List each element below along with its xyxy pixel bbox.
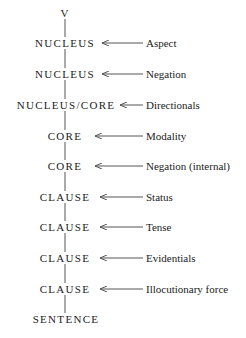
operator-negation: Negation xyxy=(146,68,186,80)
operator-aspect: Aspect xyxy=(146,37,177,49)
node-clause-4: CLAUSE xyxy=(39,283,92,295)
operator-negation-internal: Negation (internal) xyxy=(146,160,230,172)
operator-status: Status xyxy=(146,191,173,203)
operator-illocutionary-force: Illocutionary force xyxy=(146,283,228,295)
operator-evidentials: Evidentials xyxy=(146,252,196,264)
operator-tense: Tense xyxy=(146,221,172,233)
node-clause-2: CLAUSE xyxy=(39,221,92,233)
node-clause-1: CLAUSE xyxy=(39,191,92,203)
node-nucleus-core: NUCLEUS/CORE xyxy=(16,99,117,111)
node-core-2: CORE xyxy=(47,160,84,172)
node-clause-3: CLAUSE xyxy=(39,252,92,264)
root-node-v: V xyxy=(59,7,70,19)
node-nucleus-2: NUCLEUS xyxy=(34,68,96,80)
node-core-1: CORE xyxy=(47,130,84,142)
node-nucleus-1: NUCLEUS xyxy=(34,37,96,49)
operator-hierarchy-diagram: V NUCLEUS Aspect NUCLEUS Negation NUCLEU… xyxy=(0,0,246,338)
node-sentence: SENTENCE xyxy=(32,313,101,325)
operator-directionals: Directionals xyxy=(146,99,200,111)
operator-modality: Modality xyxy=(146,130,186,142)
